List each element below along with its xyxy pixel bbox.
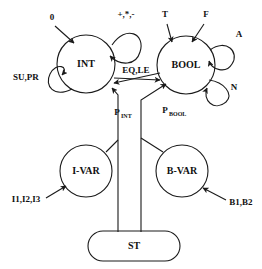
label-t: T — [162, 9, 168, 19]
edge-ivar-to-trunk — [106, 140, 118, 152]
label-f: F — [203, 9, 209, 19]
node-ivar[interactable]: I-VAR — [60, 145, 112, 197]
edge-int-self-arith: +,*,- — [110, 9, 141, 63]
edge-int-self-supr: SU,PR — [13, 67, 72, 93]
label-zero: 0 — [50, 12, 55, 22]
node-bool-label: BOOL — [172, 59, 201, 70]
node-bvar[interactable]: B-VAR — [156, 145, 208, 197]
edge-binputs-to-bvar: B1,B2 — [203, 188, 253, 207]
type-transition-diagram: INT BOOL I-VAR B-VAR ST 0 +,*,- — [0, 0, 262, 269]
label-eq-le: EQ,LE — [122, 65, 149, 75]
label-b-inputs: B1,B2 — [229, 197, 253, 207]
edge-f-arrow — [192, 24, 204, 42]
edge-bvar-to-trunk — [141, 138, 163, 152]
label-i-inputs: I1,I2,I3 — [12, 194, 41, 204]
loop-bool-n — [206, 80, 229, 106]
edge-int-bool-eqle: EQ,LE — [114, 65, 160, 83]
node-int[interactable]: INT — [57, 35, 115, 93]
label-p-int-main: P — [114, 107, 120, 117]
diagram-canvas: INT BOOL I-VAR B-VAR ST 0 +,*,- — [0, 0, 262, 269]
node-ivar-label: I-VAR — [72, 165, 100, 176]
edge-i-inputs-arrow — [46, 186, 66, 198]
label-su-pr: SU,PR — [13, 72, 39, 82]
label-p-int: P INT — [114, 107, 131, 119]
edge-zero-arrow — [55, 26, 74, 43]
node-st[interactable]: ST — [88, 231, 180, 261]
loop-bool-a — [209, 45, 234, 69]
edge-t-arrow — [167, 24, 172, 42]
node-bool[interactable]: BOOL — [157, 36, 215, 94]
edge-bool-self-n: N — [206, 80, 238, 106]
node-st-label: ST — [128, 240, 141, 251]
label-p-bool-main: P — [162, 105, 168, 115]
label-a: A — [236, 29, 243, 39]
label-p-int-sub: INT — [121, 113, 132, 119]
label-p-bool-sub: BOOL — [169, 111, 186, 117]
edge-iinputs-to-ivar: I1,I2,I3 — [12, 186, 66, 204]
trunk-edges — [112, 84, 166, 232]
node-int-label: INT — [77, 58, 95, 69]
label-p-bool: P BOOL — [162, 105, 186, 117]
label-arith-ops: +,*,- — [117, 9, 134, 19]
label-n: N — [231, 82, 238, 92]
edge-t-to-bool: T — [162, 9, 172, 42]
edge-zero-to-int: 0 — [50, 12, 74, 43]
node-bvar-label: B-VAR — [167, 165, 198, 176]
var-branch-edges — [106, 138, 163, 152]
loop-int-supr — [48, 67, 72, 93]
edge-bool-self-a: A — [209, 29, 243, 70]
edge-b-inputs-arrow — [203, 188, 226, 200]
